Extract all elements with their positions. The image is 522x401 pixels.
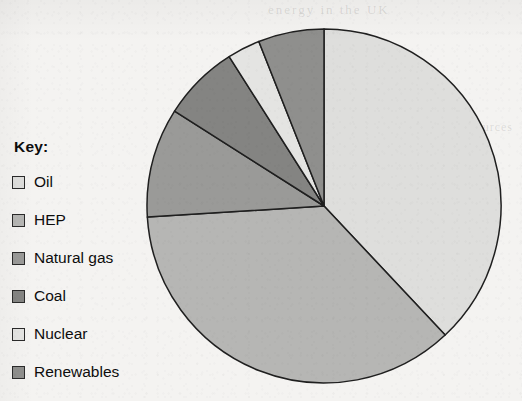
legend-item[interactable]: Renewables bbox=[12, 359, 172, 385]
legend-swatch-renewables bbox=[12, 366, 25, 379]
legend-swatch-nuclear bbox=[12, 328, 25, 341]
chart-legend: Key: OilHEPNatural gasCoalNuclearRenewab… bbox=[12, 138, 172, 397]
legend-swatch-oil bbox=[12, 176, 25, 189]
legend-swatch-hep bbox=[12, 214, 25, 227]
legend-item-list: OilHEPNatural gasCoalNuclearRenewables bbox=[12, 169, 172, 385]
legend-item-label: Nuclear bbox=[34, 326, 87, 342]
legend-item-label: HEP bbox=[34, 212, 66, 228]
legend-item-label: Coal bbox=[34, 288, 66, 304]
legend-swatch-natural-gas bbox=[12, 252, 25, 265]
legend-item[interactable]: Nuclear bbox=[12, 321, 172, 347]
pie-slice-group bbox=[147, 29, 501, 383]
legend-item[interactable]: Oil bbox=[12, 169, 172, 195]
legend-item[interactable]: HEP bbox=[12, 207, 172, 233]
legend-swatch-coal bbox=[12, 290, 25, 303]
legend-item-label: Natural gas bbox=[34, 250, 113, 266]
legend-item[interactable]: Natural gas bbox=[12, 245, 172, 271]
legend-item[interactable]: Coal bbox=[12, 283, 172, 309]
pie-chart-svg bbox=[145, 27, 503, 385]
legend-title: Key: bbox=[14, 138, 172, 156]
pie-chart bbox=[145, 27, 503, 385]
legend-item-label: Oil bbox=[34, 174, 53, 190]
chart-page: energy in the UK of renewable sources Ke… bbox=[0, 0, 522, 401]
scan-bleedthrough-top: energy in the UK bbox=[268, 2, 390, 18]
legend-item-label: Renewables bbox=[34, 364, 119, 380]
